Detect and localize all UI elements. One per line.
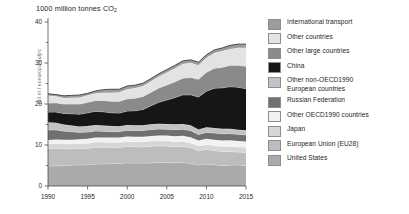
watermark-label: pbl.nl / eceuropa.eu/jrc (36, 49, 42, 104)
legend-swatch (268, 77, 281, 88)
legend-swatch (268, 155, 281, 166)
y-tick-label: 20 (26, 100, 42, 107)
legend-label: Russian Federation (287, 96, 345, 105)
legend-swatch (268, 111, 281, 122)
y-tick-label: 10 (26, 141, 42, 148)
legend-item[interactable]: European Union (EU28) (268, 140, 409, 152)
legend-label-line1: International transport (287, 18, 352, 25)
legend-item[interactable]: Other non-OECD1990European countries (268, 76, 409, 93)
legend-label-line1: Japan (287, 125, 305, 132)
chart-legend: International transportOther countriesOt… (268, 18, 409, 169)
legend-label: Other countries (287, 33, 333, 42)
legend-item[interactable]: Other OECD1990 countries (268, 111, 409, 123)
legend-item[interactable]: Other large countries (268, 47, 409, 59)
legend-label: Japan (287, 125, 305, 134)
legend-label-line1: Other OECD1990 countries (287, 111, 369, 118)
legend-item[interactable]: Japan (268, 125, 409, 137)
legend-swatch (268, 126, 281, 137)
legend-label: China (287, 62, 304, 71)
legend-label-line1: Other non-OECD1990 (287, 76, 353, 83)
legend-label: United States (287, 154, 327, 163)
legend-item[interactable]: International transport (268, 18, 409, 30)
legend-label: International transport (287, 18, 352, 27)
x-tick-label: 2010 (191, 193, 221, 200)
legend-swatch (268, 19, 281, 30)
y-tick-label: 30 (26, 59, 42, 66)
legend-label-line1: Other countries (287, 33, 333, 40)
legend-swatch (268, 140, 281, 151)
area-series-united-states (48, 162, 246, 186)
legend-label-line1: United States (287, 154, 327, 161)
y-tick-label: 0 (26, 182, 42, 189)
x-tick-label: 1995 (73, 193, 103, 200)
legend-label-line1: Russian Federation (287, 96, 345, 103)
legend-swatch (268, 48, 281, 59)
legend-label-line1: Other large countries (287, 47, 350, 54)
legend-swatch (268, 62, 281, 73)
legend-label: Other large countries (287, 47, 350, 56)
legend-label: Other OECD1990 countries (287, 111, 369, 120)
legend-swatch (268, 97, 281, 108)
chart-page: 1000 million tonnes CO2 pbl.nl / eceurop… (0, 0, 409, 214)
legend-item[interactable]: Russian Federation (268, 96, 409, 108)
legend-swatch (268, 33, 281, 44)
x-tick-label: 2005 (152, 193, 182, 200)
x-tick-label: 2000 (112, 193, 142, 200)
legend-label-line1: China (287, 62, 304, 69)
legend-item[interactable]: China (268, 62, 409, 74)
legend-item[interactable]: Other countries (268, 33, 409, 45)
x-tick-label: 2015 (231, 193, 261, 200)
legend-label-line2: European countries (287, 85, 353, 94)
legend-label: European Union (EU28) (287, 140, 358, 149)
legend-label: Other non-OECD1990European countries (287, 76, 353, 93)
legend-label-line1: European Union (EU28) (287, 140, 358, 147)
y-tick-label: 40 (26, 18, 42, 25)
x-tick-label: 1990 (33, 193, 63, 200)
legend-item[interactable]: United States (268, 154, 409, 166)
